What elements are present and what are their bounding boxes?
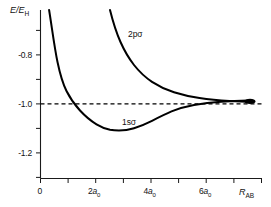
y-tick-label-0: -0.8 xyxy=(2,51,32,60)
curve-label-2psigma: 2pσ xyxy=(128,30,142,39)
curve-1ssigma xyxy=(49,10,252,131)
axes-group xyxy=(41,10,263,179)
y-axis-title: E/EH xyxy=(10,6,29,17)
convergence-marker xyxy=(245,99,256,104)
x-tick-label-0: 0 xyxy=(38,187,43,196)
x-tick-label-1: 2a0 xyxy=(88,187,100,198)
x-tick-marks xyxy=(41,179,262,184)
y-tick-marks xyxy=(36,30,41,177)
y-axis-title-subscript: H xyxy=(25,10,30,17)
y-tick-label-2: -1.2 xyxy=(2,149,32,158)
y-axis-title-text: E/E xyxy=(10,5,25,15)
x-tick-label-1-unit-sub: 0 xyxy=(97,192,100,198)
x-axis-title-subscript: AB xyxy=(246,192,254,199)
curve-2psigma xyxy=(110,10,252,102)
x-tick-label-3: 6a0 xyxy=(199,187,211,198)
x-tick-label-2-unit-sub: 0 xyxy=(153,192,156,198)
x-tick-label-2: 4a0 xyxy=(144,187,156,198)
curve-label-1ssigma: 1sσ xyxy=(122,118,136,127)
x-tick-label-3-unit-sub: 0 xyxy=(208,192,211,198)
y-tick-label-1: -1.0 xyxy=(2,100,32,109)
x-axis-title: RAB xyxy=(239,188,254,199)
potential-energy-curve-figure: E/EH -0.8 -1.0 -1.2 0 2a0 4a0 6a0 RAB 2p… xyxy=(0,0,271,207)
